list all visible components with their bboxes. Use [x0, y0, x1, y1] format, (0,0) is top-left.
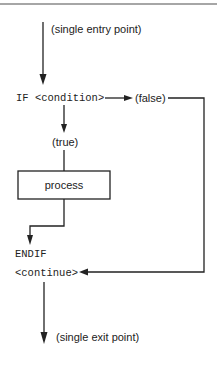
- process-label: process: [45, 179, 84, 191]
- false-arrow: [105, 95, 133, 101]
- if-endif-flowchart: (single entry point) IF <condition> (fal…: [0, 0, 217, 366]
- condition-label: IF <condition>: [16, 92, 104, 104]
- true-arrow: [61, 105, 67, 133]
- process-to-endif-connector: [30, 199, 64, 237]
- continue-arrowhead: [79, 269, 88, 276]
- false-label: (false): [135, 92, 166, 104]
- continue-label: <continue>: [15, 267, 78, 279]
- entry-arrow: [40, 22, 47, 85]
- exit-label: (single exit point): [56, 331, 139, 343]
- entry-label: (single entry point): [51, 23, 142, 35]
- true-label: (true): [52, 136, 78, 148]
- exit-arrow: [41, 282, 48, 344]
- endif-arrowhead: [27, 235, 33, 245]
- endif-label: ENDIF: [15, 248, 47, 260]
